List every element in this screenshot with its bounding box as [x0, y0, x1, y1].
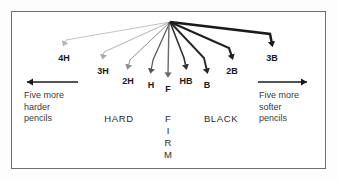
- harder-caption-line-1: Five more: [24, 90, 64, 102]
- grade-label-hb: HB: [180, 76, 193, 86]
- firm-letter-f: F: [164, 113, 172, 125]
- softer-caption-line-3: pencils: [259, 113, 299, 125]
- zone-label-firm: F I R M: [164, 113, 172, 161]
- grade-label-b: B: [204, 80, 211, 90]
- grade-label-3h: 3H: [97, 66, 109, 76]
- harder-pencils-caption: Five more harder pencils: [24, 90, 64, 125]
- firm-letter-i: I: [164, 125, 172, 137]
- harder-caption-line-2: harder: [24, 102, 64, 114]
- zone-label-hard: HARD: [104, 113, 133, 124]
- grade-label-2h: 2H: [122, 76, 134, 86]
- leader-line-f: [168, 22, 169, 75]
- softer-pencils-caption: Five more softer pencils: [259, 90, 299, 125]
- softer-caption-line-2: softer: [259, 102, 299, 114]
- leader-line-3h: [103, 22, 170, 57]
- harder-caption-line-3: pencils: [24, 113, 64, 125]
- softer-caption-line-1: Five more: [259, 90, 299, 102]
- leader-line-group: [64, 22, 272, 75]
- leader-line-4h: [64, 22, 170, 44]
- grade-label-3b: 3B: [266, 53, 278, 63]
- grade-label-f: F: [165, 84, 171, 94]
- leader-line-2h: [128, 22, 170, 67]
- firm-letter-m: M: [164, 149, 172, 161]
- grade-label-4h: 4H: [58, 53, 70, 63]
- grade-label-2b: 2B: [226, 66, 238, 76]
- firm-letter-r: R: [164, 137, 172, 149]
- grade-label-h: H: [148, 80, 155, 90]
- zone-label-black: BLACK: [204, 113, 238, 124]
- pencil-grade-diagram: 4H 3H 2H H F HB B 2B 3B Five more harder…: [0, 0, 338, 180]
- leader-line-3b: [170, 22, 272, 44]
